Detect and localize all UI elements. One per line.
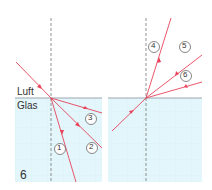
- ray-label-4: 4: [151, 42, 155, 50]
- medium-label-glass: Glas: [17, 101, 38, 111]
- ray-6: [146, 82, 202, 98]
- ray-4: [146, 18, 171, 98]
- ray-label-3: 3: [88, 114, 92, 122]
- figure-number: 6: [20, 169, 27, 181]
- arrow-icon: [175, 71, 179, 76]
- ray-label-5: 5: [182, 42, 186, 50]
- ray-label-1: 1: [57, 144, 61, 152]
- ray-label-2: 2: [89, 143, 93, 151]
- medium-label-air: Luft: [17, 87, 34, 97]
- ray-label-6: 6: [183, 71, 187, 79]
- ray-5: [146, 55, 202, 98]
